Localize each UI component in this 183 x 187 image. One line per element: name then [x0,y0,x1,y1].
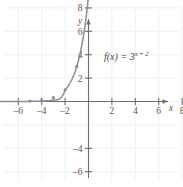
tick-marks [0,0,183,187]
x-tick-label: 4 [133,106,138,116]
y-tick-label: –6 [72,167,83,177]
background-grid [0,0,183,187]
x-axis-arrowhead [163,99,169,103]
curve-point-marker [28,99,31,102]
x-tick-label: –2 [59,106,70,116]
coordinate-plane: –10–8–6–4–2246810 –10–8–6–4246810 x y f(… [0,0,183,187]
curve-point-marker [75,65,78,68]
exponential-function-graph: –10–8–6–4–2246810 –10–8–6–4246810 x y f(… [0,0,183,187]
axes [12,19,168,178]
x-tick-label: –6 [13,106,24,116]
function-equation-base: f(x) = 3 [104,51,135,63]
y-axis-label: y [77,16,83,26]
y-tick-label: 6 [78,27,83,37]
function-equation-label: f(x) = 3x + 2 [104,50,149,63]
x-tick-label: –4 [36,106,47,116]
y-tick-labels: –10–8–6–4246810 [67,0,83,187]
curve-point-marker [64,88,67,91]
x-tick-labels: –10–8–6–4–2246810 [0,106,183,116]
x-tick-label: 8 [180,106,183,116]
x-tick-label: 6 [156,106,161,116]
function-equation-exponent: x + 2 [134,50,150,57]
x-axis-label: x [168,103,174,113]
x-tick-label: 2 [110,106,115,116]
curve-point-marker [52,96,55,99]
y-tick-label: 2 [78,74,83,84]
y-tick-label: –4 [72,144,83,154]
y-tick-label: 8 [78,3,83,13]
y-axis-arrowhead [86,19,90,25]
curve-point-marker [40,99,43,102]
